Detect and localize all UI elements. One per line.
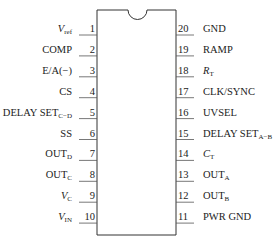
pin-label: DELAY SETA−B [203, 128, 272, 143]
pin-number: 12 [178, 190, 189, 202]
pin-label: DELAY SETC−D [3, 107, 72, 122]
pin-number: 20 [178, 23, 189, 35]
pin-number: 9 [90, 190, 95, 202]
pin-label: OUTC [46, 169, 72, 184]
pin-number: 8 [90, 169, 95, 181]
pin-label: CS [59, 86, 72, 98]
ic-package-outline [0, 0, 273, 246]
pin-label: PWR GND [203, 211, 251, 223]
pin-label: RAMP [203, 44, 233, 56]
pin-number: 11 [178, 211, 188, 223]
pin-label: CLK/SYNC [203, 86, 255, 98]
pin-label: CT [203, 148, 214, 163]
pin-label: RT [203, 65, 214, 80]
pin-number: 19 [178, 44, 189, 56]
pin-label: OUTB [203, 190, 229, 205]
pin-label: VC [61, 190, 72, 205]
pin-number: 13 [178, 169, 189, 181]
pin-number: 5 [90, 107, 95, 119]
pin-number: 6 [90, 128, 95, 140]
pin-label: Vref [58, 23, 72, 38]
chip-body [97, 10, 176, 235]
pin-label: E/A(−) [42, 65, 72, 77]
pin-label: UVSEL [203, 107, 237, 119]
pin-label: VIN [58, 211, 72, 226]
pin-label: GND [203, 23, 226, 35]
pin-label: OUTA [203, 169, 230, 184]
pin-number: 1 [90, 23, 95, 35]
pin-number: 15 [178, 128, 189, 140]
pin-number: 7 [90, 148, 95, 160]
pin-number: 10 [85, 211, 96, 223]
pin-number: 2 [90, 44, 95, 56]
pin-number: 17 [178, 86, 189, 98]
pin-label: SS [60, 128, 72, 140]
pin-number: 3 [90, 65, 95, 77]
pin-number: 14 [178, 148, 189, 160]
pin-number: 4 [90, 86, 95, 98]
pin-number: 16 [178, 107, 189, 119]
pin-number: 18 [178, 65, 189, 77]
pin-label: OUTD [45, 148, 72, 163]
pin-label: COMP [42, 44, 72, 56]
